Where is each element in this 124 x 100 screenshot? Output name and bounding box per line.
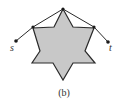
label-t: t	[109, 42, 112, 53]
vertex-s	[14, 39, 18, 43]
figure-caption: (b)	[58, 87, 70, 99]
edge-right-t	[94, 27, 108, 42]
star-polygon	[32, 9, 95, 80]
vertex-apex	[61, 7, 64, 10]
star-path-diagram: s t (b)	[0, 0, 124, 100]
vertex-right	[92, 25, 95, 28]
edge-s-left	[16, 27, 33, 41]
label-s: s	[10, 42, 14, 53]
vertex-left	[31, 25, 34, 28]
